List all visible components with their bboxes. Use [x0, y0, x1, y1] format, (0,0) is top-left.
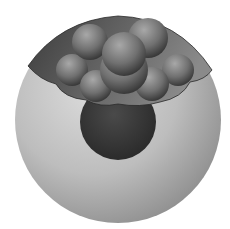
sphere-illustration — [0, 0, 230, 229]
